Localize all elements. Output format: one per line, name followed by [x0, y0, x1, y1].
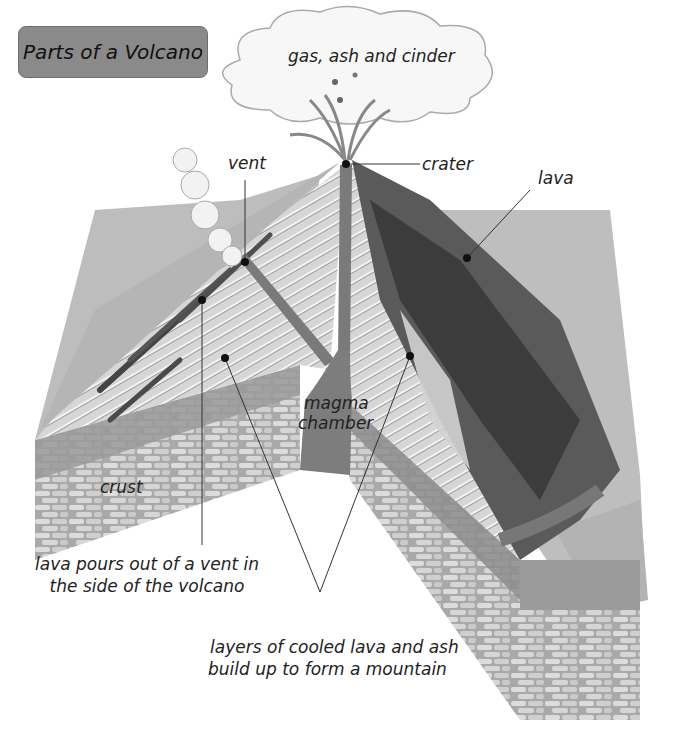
label-magma-line1: magma — [304, 393, 369, 414]
label-gas-ash-cinder: gas, ash and cinder — [288, 46, 455, 67]
label-vent: vent — [228, 153, 266, 174]
volcano-illustration — [0, 0, 684, 731]
eruption-cloud — [223, 6, 493, 160]
title-text: Parts of a Volcano — [23, 40, 203, 64]
label-crater: crater — [422, 154, 473, 175]
diagram-title: Parts of a Volcano — [18, 26, 208, 78]
label-layers-line1: layers of cooled lava and ash — [210, 637, 459, 658]
label-magma-line2: chamber — [298, 413, 373, 434]
label-layers-line2: build up to form a mountain — [208, 659, 447, 680]
label-side-vent-line2: the side of the volcano — [22, 576, 272, 597]
label-crust: crust — [100, 477, 143, 498]
label-lava: lava — [538, 168, 574, 189]
label-side-vent-line1: lava pours out of a vent in — [22, 554, 272, 575]
